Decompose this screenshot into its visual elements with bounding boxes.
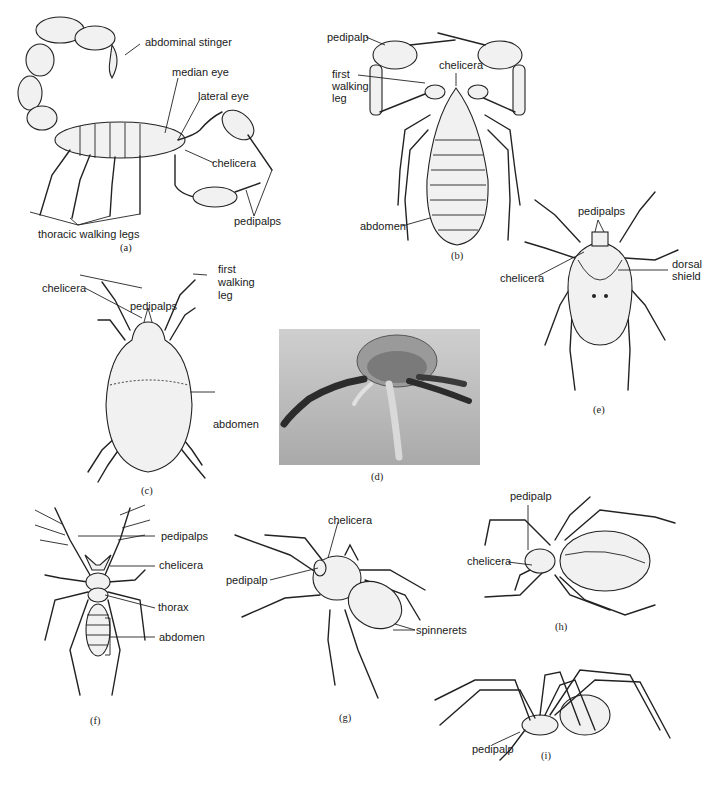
tick-micrograph-photo — [279, 329, 480, 465]
label-chelicera: chelicera — [328, 514, 372, 526]
label-chelicera: chelicera — [42, 282, 86, 294]
panel-h-orb-spider: pedipalp chelicera (h) — [460, 485, 714, 630]
label-pedipalp: pedipalp — [472, 743, 514, 755]
caption-h: (h) — [555, 621, 567, 632]
label-chelicera: chelicera — [467, 555, 511, 567]
caption-a: (a) — [120, 242, 132, 253]
panel-a-scorpion: abdominal stinger median eye lateral eye… — [0, 0, 300, 260]
caption-f: (f) — [90, 715, 101, 726]
label-chelicera: chelicera — [212, 157, 256, 169]
label-abdomen: abdomen — [159, 631, 205, 643]
label-abdomen: abdomen — [360, 220, 406, 232]
label-pedipalps: pedipalps — [130, 300, 177, 312]
long-legged-spider-illustration — [420, 660, 714, 785]
label-median-eye: median eye — [172, 66, 229, 78]
label-pedipalp: pedipalp — [226, 574, 268, 586]
label-first: first — [218, 263, 236, 275]
label-chelicera: chelicera — [500, 272, 544, 284]
label-chelicera: chelicera — [439, 59, 483, 71]
label-walking: walking — [218, 276, 255, 288]
label-lateral-eye: lateral eye — [198, 90, 249, 102]
tick-illustration — [500, 180, 714, 440]
panel-c-mite: pedipalps chelicera first walking leg ab… — [30, 260, 260, 500]
label-leg: leg — [218, 289, 233, 301]
caption-i: (i) — [541, 750, 551, 761]
label-thoracic-walking-legs: thoracic walking legs — [38, 228, 140, 240]
panel-d-micrograph: (d) — [260, 260, 500, 490]
label-chelicera: chelicera — [159, 559, 203, 571]
label-pedipalps: pedipalps — [161, 530, 208, 542]
panel-e-tick: pedipalps chelicera dorsal shield (e) — [500, 180, 714, 440]
label-pedipalp: pedipalp — [510, 490, 552, 502]
panel-f-solifugid: pedipalps chelicera thorax abdomen (f) — [0, 500, 220, 740]
label-leg: leg — [332, 92, 347, 104]
label-abdominal-stinger: abdominal stinger — [145, 36, 232, 48]
label-thorax: thorax — [158, 601, 189, 613]
label-dorsal: dorsal — [672, 258, 702, 270]
panel-i-long-legged-spider: pedipalp (i) — [420, 660, 714, 785]
label-pedipalps: pedipalps — [234, 215, 281, 227]
caption-e: (e) — [593, 404, 605, 415]
label-abdomen: abdomen — [213, 418, 259, 430]
label-walking: walking — [332, 80, 369, 92]
caption-d: (d) — [371, 471, 383, 482]
label-shield: shield — [672, 270, 701, 282]
label-pedipalps: pedipalps — [578, 205, 625, 217]
label-first: first — [332, 68, 350, 80]
caption-c: (c) — [141, 485, 153, 496]
caption-g: (g) — [339, 712, 351, 723]
label-pedipalp: pedipalp — [327, 31, 369, 43]
